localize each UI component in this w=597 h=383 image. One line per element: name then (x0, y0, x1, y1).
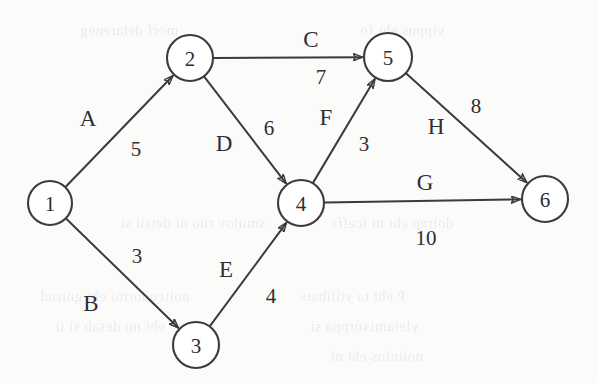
node-5[interactable]: 5 (364, 33, 412, 81)
node-label-4: 4 (296, 192, 307, 216)
node-label-5: 5 (383, 46, 394, 70)
edge-name-h: H (428, 114, 445, 139)
graph-canvas: 123456 A5B3C7D6E4F3G10H8 (0, 0, 597, 383)
node-2[interactable]: 2 (167, 35, 213, 81)
node-label-2: 2 (185, 47, 196, 71)
edge-labels-group: A5B3C7D6E4F3G10H8 (80, 27, 482, 316)
edge-weight-e: 4 (266, 284, 277, 308)
edge-name-c: C (303, 27, 318, 52)
edge-h (407, 74, 527, 182)
edge-name-g: G (417, 170, 434, 195)
node-4[interactable]: 4 (278, 180, 324, 226)
diagram-page: smulov ruo ni detsil sidoirep eht ni tce… (0, 0, 597, 383)
edge-weight-c: 7 (316, 65, 327, 89)
edge-weight-f: 3 (359, 132, 370, 156)
node-1[interactable]: 1 (28, 181, 72, 225)
edge-weight-a: 5 (131, 137, 142, 161)
edge-name-d: D (216, 131, 233, 156)
edge-g (325, 199, 520, 202)
edge-name-b: B (83, 291, 98, 316)
node-label-3: 3 (191, 334, 202, 358)
edge-name-e: E (219, 257, 233, 282)
edge-c (214, 57, 362, 58)
edge-weight-b: 3 (132, 244, 143, 268)
edge-a (66, 76, 173, 186)
node-label-1: 1 (45, 192, 56, 216)
edge-name-f: F (320, 105, 333, 130)
edge-weight-h: 8 (471, 94, 482, 118)
node-6[interactable]: 6 (522, 176, 568, 222)
edge-name-a: A (80, 106, 97, 131)
edge-weight-g: 10 (416, 226, 437, 250)
edge-f (313, 79, 374, 182)
node-3[interactable]: 3 (173, 322, 219, 368)
edge-weight-d: 6 (264, 116, 275, 140)
node-label-6: 6 (540, 188, 551, 212)
